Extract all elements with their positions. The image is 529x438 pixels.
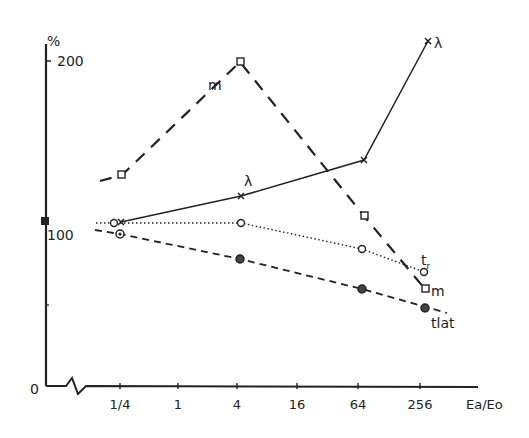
x-axis — [46, 378, 478, 394]
y-tick-label-0: 0 — [30, 382, 39, 396]
marker-open-circle-icon — [359, 246, 366, 253]
series-label-m-top: m — [208, 78, 222, 92]
y-tick-label-100: 100 — [47, 228, 74, 242]
marker-square-icon — [237, 58, 244, 65]
series-label-lambda-mid: λ — [244, 174, 252, 188]
series-tr — [96, 220, 428, 276]
y-marker-100-icon — [41, 217, 49, 225]
marker-open-circle-icon — [111, 220, 118, 227]
tr-label-sub: r — [427, 261, 431, 271]
series-m — [100, 58, 429, 292]
x-tick-label-256: 256 — [408, 398, 433, 411]
marker-filled-circle-icon — [358, 285, 366, 293]
marker-square-icon — [361, 212, 368, 219]
series-lambda — [118, 38, 431, 225]
x-tick-label-1-4: 1/4 — [110, 398, 131, 411]
marker-cross-icon — [425, 38, 431, 44]
marker-square-icon — [118, 171, 125, 178]
marker-square-icon — [422, 285, 429, 292]
x-tick-label-16: 16 — [289, 398, 306, 411]
axes — [41, 44, 478, 394]
marker-filled-circle-icon — [421, 304, 429, 312]
x-axis-title: Ea/Eo — [466, 398, 503, 411]
series-tlat — [95, 230, 447, 313]
y-tick-label-200: 200 — [57, 54, 84, 68]
x-tick-label-4: 4 — [233, 398, 241, 411]
series-label-lambda-end: λ — [434, 36, 442, 50]
series-label-tr: tr — [421, 253, 430, 271]
x-tick-label-64: 64 — [350, 398, 367, 411]
y-axis-unit: % — [47, 34, 60, 48]
series-label-m-end: m — [431, 284, 445, 298]
marker-filled-circle-icon — [236, 255, 244, 263]
series-label-tlat: tlat — [431, 316, 454, 330]
marker-open-circle-icon — [238, 220, 245, 227]
x-tick-label-1: 1 — [174, 398, 182, 411]
